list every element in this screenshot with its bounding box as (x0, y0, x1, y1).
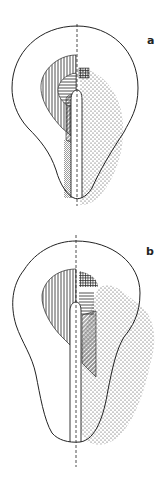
panel-label-b: b (146, 245, 154, 258)
sparse-stipple-region (80, 68, 123, 205)
panel-a: a (0, 0, 167, 235)
diagram-b (0, 235, 167, 482)
panel-b: b (0, 235, 167, 482)
central-rod (70, 302, 81, 442)
diagram-a (0, 0, 167, 235)
panel-label-a: a (147, 34, 154, 47)
central-rod (71, 90, 82, 198)
cross-hatch-region (79, 271, 98, 287)
cross-hatch-region (79, 68, 89, 78)
